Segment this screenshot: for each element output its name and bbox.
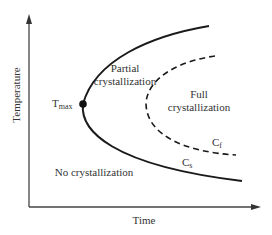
cs-label-sub: s	[189, 161, 192, 170]
cf-label-main: C	[212, 136, 219, 148]
full-region-label-line1: Full	[190, 88, 208, 100]
cf-label: Cf	[212, 136, 222, 150]
cf-label-sub: f	[219, 141, 222, 150]
cs-label-main: C	[182, 156, 189, 168]
crystallization-diagram: Temperature Time Tmax Partial crystalliz…	[0, 0, 272, 235]
tmax-point	[79, 100, 87, 108]
x-axis-arrow-icon	[251, 204, 261, 210]
y-axis-arrow-icon	[26, 14, 32, 24]
partial-region-label-line1: Partial	[111, 62, 140, 74]
y-axis-label: Temperature	[10, 67, 22, 123]
tmax-label-sub: max	[59, 102, 73, 111]
partial-region-label-line2: crystallization	[94, 75, 157, 87]
full-region-label-line2: crystallization	[168, 101, 231, 113]
tmax-label: Tmax	[52, 97, 73, 111]
no-crystallization-label: No crystallization	[55, 166, 134, 178]
x-axis-label: Time	[133, 214, 156, 226]
cs-label: Cs	[182, 156, 192, 170]
